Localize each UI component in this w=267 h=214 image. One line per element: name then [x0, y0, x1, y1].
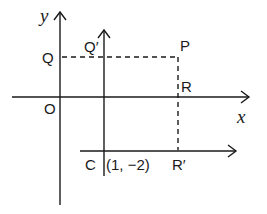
x-axis-label: x [236, 106, 246, 127]
point-c-label: C [85, 156, 96, 173]
coordinate-diagram: y x O Q Q′ P R C (1, −2) R′ [0, 0, 267, 214]
point-q-label: Q [42, 49, 54, 66]
point-q-prime-label: Q′ [84, 38, 99, 55]
y-axis-label: y [38, 5, 49, 26]
origin-label: O [44, 100, 56, 117]
point-r-prime-label: R′ [172, 156, 186, 173]
new-origin-coordinates: (1, −2) [106, 156, 150, 173]
point-r-label: R [181, 78, 192, 95]
point-p-label: P [180, 37, 190, 54]
